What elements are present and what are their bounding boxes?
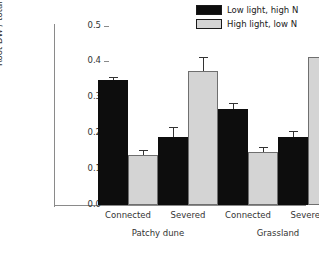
error-bar xyxy=(113,78,114,80)
error-bar xyxy=(263,148,264,153)
error-bar xyxy=(143,151,144,155)
error-bar-cap xyxy=(229,103,238,104)
error-bar-cap xyxy=(109,77,118,78)
legend-label-low-light-high-n: Low light, high N xyxy=(227,5,298,15)
bar xyxy=(218,109,248,205)
bar xyxy=(98,80,128,205)
y-axis-title: Root DW / total DW xyxy=(0,0,4,66)
error-bar xyxy=(293,132,294,137)
error-bar xyxy=(173,128,174,137)
legend-item-low-light-high-n: Low light, high N xyxy=(196,4,316,16)
plot-area: 0.00.10.20.30.40.5 xyxy=(55,26,304,205)
bar-chart-figure: Low light, high N High light, low N Root… xyxy=(0,0,319,253)
y-tick: 0.4 xyxy=(104,61,109,62)
bar xyxy=(128,155,158,205)
x-tick-label: Severed xyxy=(291,210,319,220)
error-bar-cap xyxy=(199,57,208,58)
x-group-label: Grassland xyxy=(257,228,300,238)
x-tick-label: Severed xyxy=(171,210,206,220)
error-bar-cap xyxy=(169,127,178,128)
x-tick-label: Connected xyxy=(225,210,271,220)
error-bar xyxy=(233,104,234,109)
x-tick-label: Connected xyxy=(105,210,151,220)
y-tick-label: 0.5 xyxy=(87,20,101,30)
bar xyxy=(188,71,218,205)
bar xyxy=(308,57,319,205)
error-bar-cap xyxy=(259,147,268,148)
error-bar-cap xyxy=(139,150,148,151)
error-bar xyxy=(203,58,204,71)
bar xyxy=(278,137,308,205)
bar xyxy=(248,152,278,205)
legend-swatch-dark xyxy=(196,5,222,15)
error-bar-cap xyxy=(289,131,298,132)
y-tick: 0.5 xyxy=(104,26,109,27)
bar xyxy=(158,137,188,205)
x-group-label: Patchy dune xyxy=(132,228,184,238)
y-tick-label: 0.4 xyxy=(87,55,101,65)
